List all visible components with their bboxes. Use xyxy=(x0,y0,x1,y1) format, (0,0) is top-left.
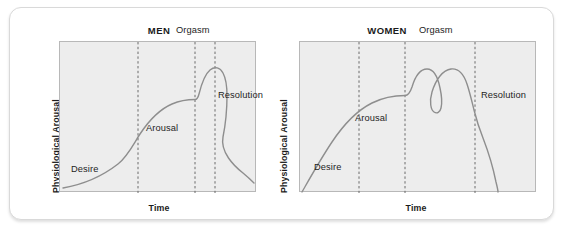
x-axis-label-women: Time xyxy=(356,203,476,213)
annotation-orgasm-men: Orgasm xyxy=(176,25,210,35)
panel-title-women: WOMEN xyxy=(282,25,492,36)
plot-area-women: Desire Arousal Orgasm Resolution xyxy=(299,41,536,192)
panel-women: WOMEN Physiological Arousal Time Desire … xyxy=(262,8,512,221)
annotation-desire-men: Desire xyxy=(71,164,98,174)
y-axis-label-women: Physiological Arousal xyxy=(279,99,289,193)
figure-page: MEN Physiological Arousal Time Desire Ar… xyxy=(0,0,565,235)
annotation-resolution-women: Resolution xyxy=(481,90,526,100)
annotation-resolution-men: Resolution xyxy=(218,90,263,100)
panel-men: MEN Physiological Arousal Time Desire Ar… xyxy=(22,8,272,221)
annotation-desire-women: Desire xyxy=(314,162,341,172)
annotation-orgasm-women: Orgasm xyxy=(419,25,453,35)
annotation-arousal-men: Arousal xyxy=(146,123,178,133)
panel-title-men: MEN xyxy=(54,25,264,36)
annotation-arousal-women: Arousal xyxy=(355,113,387,123)
plot-area-men: Desire Arousal Orgasm Resolution xyxy=(59,41,256,192)
x-axis-label-men: Time xyxy=(99,203,219,213)
figure-card: MEN Physiological Arousal Time Desire Ar… xyxy=(9,7,554,220)
response-curve-women xyxy=(302,69,498,192)
